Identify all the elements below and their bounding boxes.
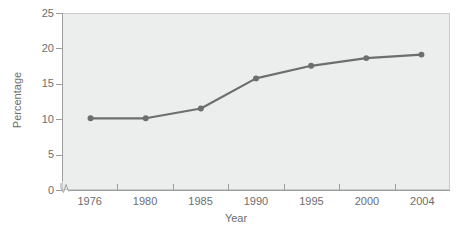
x-axis-tick-label: 1995 xyxy=(289,196,333,207)
chart-figure: 2520151050 1976198019851990199520002004 … xyxy=(0,0,472,236)
x-axis-tick-label: 1990 xyxy=(234,196,278,207)
x-axis-line xyxy=(70,190,450,191)
data-point xyxy=(253,75,259,81)
y-axis-tick xyxy=(56,13,62,14)
y-axis-title: Percentage xyxy=(11,55,23,145)
axis-break-icon xyxy=(60,182,74,194)
x-axis-tick-label: 1980 xyxy=(123,196,167,207)
x-axis-tick-label: 1985 xyxy=(179,196,223,207)
data-point xyxy=(88,115,94,121)
x-axis-tick-label: 2000 xyxy=(345,196,389,207)
series-markers xyxy=(88,52,425,122)
data-point xyxy=(308,63,314,69)
x-axis-tick xyxy=(284,184,285,190)
x-axis-tick xyxy=(395,184,396,190)
y-axis-tick xyxy=(56,119,62,120)
series-line-chart xyxy=(63,14,449,189)
x-axis-tick xyxy=(339,184,340,190)
y-axis-tick-label: 5 xyxy=(24,149,54,160)
data-point xyxy=(198,106,204,112)
y-axis-tick xyxy=(56,155,62,156)
data-point xyxy=(143,115,149,121)
plot-area xyxy=(62,13,450,190)
data-point xyxy=(418,52,424,58)
data-point xyxy=(363,55,369,61)
y-axis-tick xyxy=(56,190,62,191)
y-axis-tick xyxy=(56,84,62,85)
y-axis-tick-label: 25 xyxy=(24,8,54,19)
x-axis-tick-label: 2004 xyxy=(400,196,444,207)
y-axis-line xyxy=(62,13,63,181)
y-axis-tick xyxy=(56,48,62,49)
x-axis-tick xyxy=(228,184,229,190)
y-axis-tick-label: 0 xyxy=(24,185,54,196)
x-axis-tick xyxy=(117,184,118,190)
x-axis-tick xyxy=(173,184,174,190)
x-axis-title: Year xyxy=(0,212,472,224)
y-axis-tick-label: 10 xyxy=(24,114,54,125)
x-axis-tick-label: 1976 xyxy=(68,196,112,207)
y-axis-tick-label: 20 xyxy=(24,43,54,54)
series-line xyxy=(91,55,422,119)
y-axis-tick-label: 15 xyxy=(24,78,54,89)
